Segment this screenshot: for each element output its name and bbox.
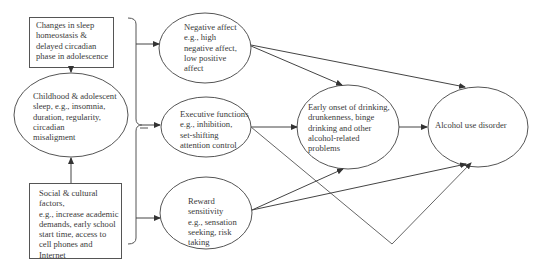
text-line: Social & cultural xyxy=(39,188,118,198)
text-line: e.g., high xyxy=(184,32,237,42)
text-line: drinking and other xyxy=(308,123,390,133)
alcohol-use-disorder-label: Alcohol use disorder xyxy=(435,120,507,130)
text-line: Childhood & adolescent xyxy=(33,91,117,101)
text-line: Internet xyxy=(39,250,118,260)
edge-reward-to-early-onset xyxy=(252,169,343,210)
text-line: Executive functions xyxy=(180,109,249,119)
text-line: circadian xyxy=(33,122,117,132)
text-line: delayed circadian xyxy=(36,41,108,51)
text-line: attention control xyxy=(180,140,249,150)
text-line: sensitivity xyxy=(188,206,237,216)
text-line: misaligment xyxy=(33,132,117,142)
text-line: e.g., inhibition, xyxy=(180,119,249,129)
text-line: start time, access to xyxy=(39,229,118,239)
text-line: affect xyxy=(184,63,237,73)
negative-affect-label: Negative affect e.g., high negative affe… xyxy=(184,22,237,73)
text-line: alcohol-related xyxy=(308,133,390,143)
text-line: sleep, e.g., insomnia, xyxy=(33,101,117,111)
edge-reward-to-aud xyxy=(252,164,466,210)
text-line: duration, regularity, xyxy=(33,112,117,122)
grouping-brace xyxy=(128,18,142,244)
edge-negative-to-early-onset xyxy=(251,46,342,85)
text-line: e.g., sensation xyxy=(188,217,237,227)
sleep-changes-label: Changes in sleep homeostasis & delayed c… xyxy=(36,20,108,61)
text-line: set-shifting xyxy=(180,130,249,140)
text-line: e.g., increase academic xyxy=(39,209,118,219)
text-line: Negative affect xyxy=(184,22,237,32)
text-line: Changes in sleep xyxy=(36,20,108,30)
executive-functions-label: Executive functions e.g., inhibition, se… xyxy=(180,109,249,150)
text-line: factors, xyxy=(39,198,118,208)
text-line: homeostasis & xyxy=(36,30,108,40)
text-line: negative affect, xyxy=(184,43,237,53)
edge-negative-to-aud xyxy=(251,45,465,87)
text-line: cell phones and xyxy=(39,239,118,249)
early-onset-label: Early onset of drinking, drunkenness, bi… xyxy=(308,102,390,153)
text-line: Alcohol use disorder xyxy=(435,120,507,130)
text-line: Reward xyxy=(188,196,237,206)
text-line: low positive xyxy=(184,53,237,63)
text-line: demands, early school xyxy=(39,219,118,229)
childhood-sleep-label: Childhood & adolescent sleep, e.g., inso… xyxy=(33,91,117,142)
social-factors-label: Social & cultural factors, e.g., increas… xyxy=(39,188,118,260)
text-line: drunkenness, binge xyxy=(308,112,390,122)
reward-sensitivity-label: Reward sensitivity e.g., sensation seeki… xyxy=(188,196,237,247)
text-line: seeking, risk xyxy=(188,227,237,237)
text-line: taking xyxy=(188,237,237,247)
text-line: phase in adolescence xyxy=(36,51,108,61)
text-line: problems xyxy=(308,143,390,153)
text-line: Early onset of drinking, xyxy=(308,102,390,112)
